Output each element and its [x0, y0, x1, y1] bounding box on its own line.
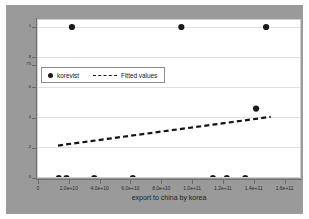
y-tick-label-wrap: .8 — [6, 55, 31, 61]
y-tick-mark — [32, 65, 36, 66]
y-tick-label: .6 — [7, 85, 31, 90]
y-tick-label-wrap: .75 — [6, 62, 31, 68]
graph-region: 1.8.75.6.4.20 02.0e+104.0e+106.0e+108.0e… — [6, 5, 303, 214]
scatter-point — [69, 24, 75, 30]
legend-label: Fitted values — [121, 72, 157, 79]
legend-label: korevist — [57, 72, 79, 79]
fitted-values-line — [58, 117, 271, 146]
scatter-point — [63, 175, 69, 177]
y-tick-mark — [32, 148, 36, 149]
y-tick-mark — [32, 57, 36, 58]
scatter-point — [56, 175, 62, 177]
scatter-point — [91, 175, 97, 177]
y-tick-label-wrap: .2 — [6, 145, 31, 151]
scatter-point — [130, 175, 136, 177]
plot-area — [37, 19, 301, 178]
x-axis-line — [36, 179, 302, 180]
x-axis-title: export to china by korea — [37, 193, 301, 202]
y-tick-mark — [32, 27, 36, 28]
x-tick-mark — [100, 180, 101, 184]
y-tick-mark — [32, 178, 36, 179]
plot-canvas — [38, 20, 300, 177]
scatter-point — [224, 175, 230, 177]
scatter-point — [178, 24, 184, 30]
legend: korevist Fitted values — [41, 67, 165, 83]
scatter-point — [242, 175, 248, 177]
y-tick-label-wrap: 1 — [6, 24, 31, 30]
y-tick-label: 1 — [7, 24, 31, 29]
scatter-point — [210, 175, 216, 177]
x-tick-mark — [285, 180, 286, 184]
legend-entry-korevist: korevist — [48, 72, 79, 79]
y-tick-label: .8 — [7, 55, 31, 60]
y-tick-label-wrap: .4 — [6, 115, 31, 121]
x-tick-mark — [254, 180, 255, 184]
x-tick-mark — [161, 180, 162, 184]
x-tick-mark — [38, 180, 39, 184]
y-tick-label: 0 — [7, 175, 31, 180]
scatter-point — [263, 24, 269, 30]
y-tick-mark — [32, 87, 36, 88]
y-tick-label: .4 — [7, 115, 31, 120]
x-tick-label: 1.6e+11 — [265, 185, 305, 191]
y-tick-mark — [32, 118, 36, 119]
y-tick-label-wrap: 0 — [6, 175, 31, 181]
dashed-line-icon — [93, 75, 117, 76]
y-axis-line — [36, 18, 37, 180]
x-tick-mark — [223, 180, 224, 184]
x-tick-mark — [69, 180, 70, 184]
y-tick-label: .2 — [7, 145, 31, 150]
y-tick-label-wrap: .6 — [6, 85, 31, 91]
scatter-point — [253, 105, 259, 111]
x-tick-mark — [130, 180, 131, 184]
figure-root: 1.8.75.6.4.20 02.0e+104.0e+106.0e+108.0e… — [0, 0, 309, 219]
filled-circle-icon — [48, 73, 53, 78]
legend-entry-fitted-values: Fitted values — [93, 72, 157, 79]
y-tick-label: .75 — [7, 62, 31, 67]
x-tick-mark — [192, 180, 193, 184]
